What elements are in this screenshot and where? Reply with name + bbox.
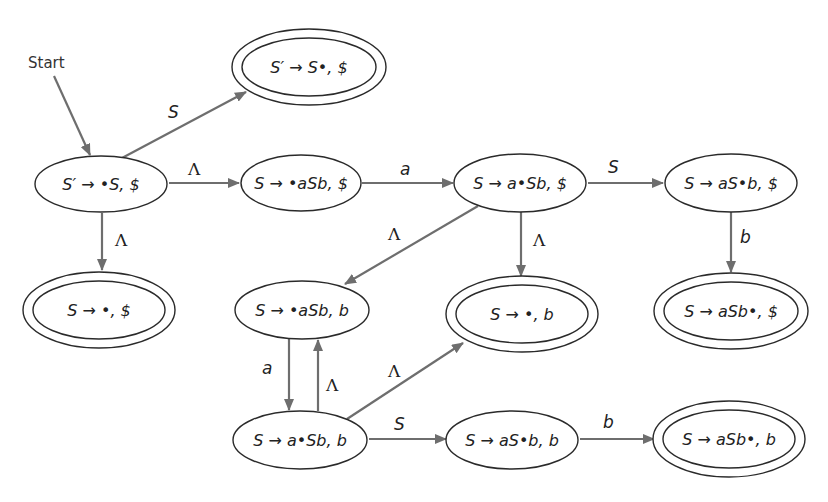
start-arrow [54,76,90,155]
edge-n4-n7 [345,206,478,284]
edge-label-n3-n4: a [400,159,410,179]
state-n7: S → •aSb, b [235,281,369,339]
edge-label-n4-n8: Λ [532,230,546,250]
edge-n1-n2 [122,92,246,158]
edge-label-n1-n6: Λ [114,230,128,250]
state-n6-accepting: S → •, $ [23,272,175,348]
state-label: S → a•Sb, $ [473,174,567,193]
state-label: S → aSb•, b [682,430,776,449]
edge-label-n10-n7: Λ [325,375,339,395]
edge-label-n4-n5: S [608,157,619,177]
edge-label-n10-n8: Λ [387,361,401,381]
state-label: S → aS•b, b [465,431,559,450]
edge-label-n10-n11: S [394,414,405,434]
state-label: S′ → S•, $ [270,58,347,77]
state-label: S → •, $ [67,301,131,320]
edge-label-n1-n3: Λ [187,159,201,179]
state-n10: S → a•Sb, b [233,411,367,469]
edge-label-n7-n10: a [262,358,272,378]
edge-label-n4-n7: Λ [387,224,401,244]
state-n1: S′ → •S, $ [35,156,167,212]
state-n5: S → aS•b, $ [665,154,797,212]
state-n2-accepting: S′ → S•, $ [232,29,386,105]
edge-label-n11-n12: b [603,412,614,432]
edge-label-n5-n9: b [740,227,751,247]
state-label: S → a•Sb, b [253,431,347,450]
state-n11: S → aS•b, b [446,411,578,469]
nfa-diagram: Start S Λ Λ a S Λ Λ b a Λ Λ S b S′ → •S,… [0,0,828,502]
state-label: S → •aSb, b [255,301,349,320]
start-label: Start [28,54,65,72]
state-n12-accepting: S → aSb•, b [653,401,805,477]
state-label: S → aS•b, $ [684,174,778,193]
state-label: S → •aSb, $ [254,174,348,193]
state-n8-accepting: S → •, b [446,276,598,352]
state-n9-accepting: S → aSb•, $ [654,273,808,349]
edge-label-n1-n2: S [168,102,179,122]
state-label: S′ → •S, $ [62,175,139,194]
state-n4: S → a•Sb, $ [454,154,586,212]
edge-n10-n8 [347,343,463,419]
state-label: S → •, b [490,305,554,324]
state-label: S → aSb•, $ [684,302,778,321]
state-n3: S → •aSb, $ [241,155,361,211]
